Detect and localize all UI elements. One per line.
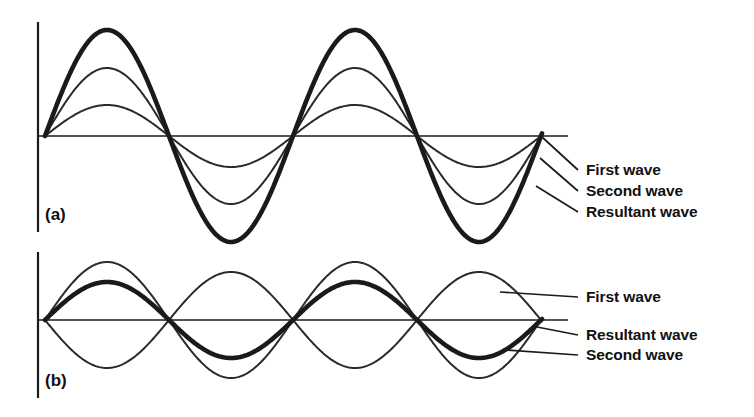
panel-b-callout-first-wave: First wave: [586, 288, 661, 305]
wave-figure-canvas: First wave Second wave Resultant wave (a…: [0, 0, 754, 417]
panel-a-callout-first-wave: First wave: [586, 161, 661, 178]
leader-line: [540, 158, 578, 191]
panel-b-callout-second-wave: Second wave: [586, 346, 684, 363]
panel-a-callout-second-wave: Second wave: [586, 182, 684, 199]
panel-a: First wave Second wave Resultant wave (a…: [38, 22, 698, 242]
panel-a-callout-resultant-wave: Resultant wave: [586, 203, 698, 220]
leader-line: [500, 292, 578, 297]
panel-a-label: (a): [45, 205, 66, 224]
panel-a-leader-lines: [536, 137, 578, 212]
panel-b: First wave Resultant wave Second wave (b…: [38, 252, 698, 398]
wave-interference-figure: First wave Second wave Resultant wave (a…: [0, 0, 754, 417]
leader-line: [536, 186, 578, 212]
panel-b-callout-resultant-wave: Resultant wave: [586, 326, 698, 343]
leader-line: [537, 327, 578, 335]
panel-b-label: (b): [45, 371, 67, 390]
